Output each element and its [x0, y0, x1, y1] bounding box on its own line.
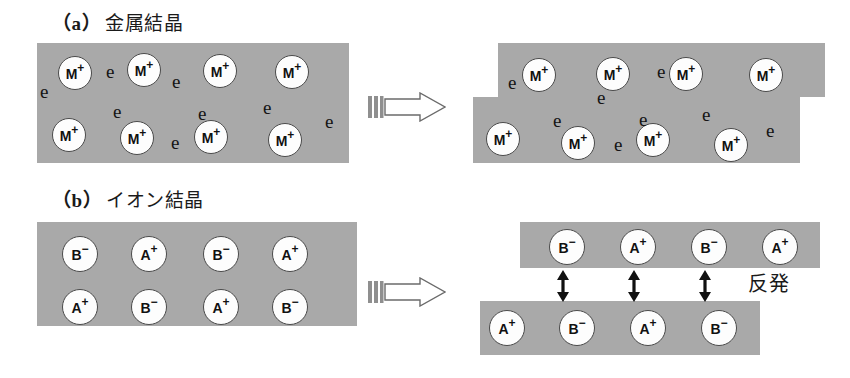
metal-ion-after: M+ [669, 57, 703, 91]
ionic-anion-before: B− [203, 236, 239, 272]
metal-ion-before: M+ [268, 123, 302, 157]
metal-ion-after-symbol: M [569, 137, 581, 151]
ionic-cation-after-charge: + [782, 236, 789, 248]
metal-ion-before: M+ [52, 118, 86, 152]
metal-ion-after-symbol: M [604, 68, 616, 82]
ionic-anion-before: B− [131, 289, 167, 325]
metal-before-electron: e [198, 104, 206, 123]
ionic-cation-before-symbol: A [212, 301, 222, 315]
metal-ion-before-charge: + [71, 124, 78, 136]
ionic-cation-after-symbol: A [629, 241, 639, 255]
metal-before-electron: e [40, 82, 48, 101]
metal-ion-after: M+ [596, 57, 630, 91]
ionic-cation-before-charge: + [223, 296, 230, 308]
ionic-anion-before-symbol: B [140, 301, 150, 315]
ionic-anion-before-symbol: B [71, 248, 81, 262]
ionic-cation-after-symbol: A [498, 322, 508, 336]
metal-ion-after-symbol: M [722, 139, 734, 153]
metal-ion-before: M+ [275, 55, 309, 89]
ionic-cation-after: A+ [489, 310, 525, 346]
metal-ion-after-charge: + [541, 64, 548, 76]
ionic-anion-after-symbol: B [568, 322, 578, 336]
metal-ion-before-charge: + [294, 61, 301, 73]
metal-ion-after: M+ [749, 58, 783, 92]
ionic-cation-after: A+ [620, 229, 656, 265]
repulsion-arrow [555, 270, 571, 302]
ionic-anion-before-charge: − [292, 296, 299, 308]
section-title-a: 金属結晶 [105, 13, 183, 34]
ionic-anion-after: B− [549, 229, 585, 265]
metal-ion-before-symbol: M [128, 132, 140, 146]
ionic-cation-before: A+ [62, 289, 98, 325]
metal-after-electron: e [553, 111, 561, 130]
ionic-cation-after-charge: + [509, 317, 516, 329]
ionic-anion-after: B− [701, 310, 737, 346]
metal-ion-before-charge: + [139, 127, 146, 139]
ionic-anion-after-symbol: B [710, 322, 720, 336]
metal-ion-after-charge: + [768, 64, 775, 76]
ionic-cation-before: A+ [272, 236, 308, 272]
metal-ion-before-charge: + [77, 62, 84, 74]
metal-ion-after-symbol: M [644, 134, 656, 148]
metal-before-electron: e [172, 72, 180, 91]
push-arrow-ionic [368, 277, 446, 307]
metal-ion-before: M+ [194, 120, 228, 154]
metal-ion-after: M+ [522, 58, 556, 92]
metal-ion-after-charge: + [580, 132, 587, 144]
metal-ion-before-symbol: M [276, 134, 288, 148]
ionic-anion-before-symbol: B [212, 248, 222, 262]
ionic-cation-after: A+ [762, 229, 798, 265]
metal-ion-before-symbol: M [202, 131, 214, 145]
repulsion-arrow [626, 270, 642, 302]
section-caption-b: （b）イオン結晶 [52, 185, 204, 212]
metal-ion-before-symbol: M [283, 66, 295, 80]
push-arrow-metal [368, 92, 446, 122]
repulsion-arrow [697, 270, 713, 302]
metal-ion-before: M+ [58, 56, 92, 90]
metal-ion-before: M+ [120, 121, 154, 155]
ionic-cation-after-symbol: A [771, 241, 781, 255]
metal-ion-before-symbol: M [66, 67, 78, 81]
section-caption-a: （a）金属結晶 [52, 8, 183, 35]
metal-after-electron: e [508, 73, 516, 92]
section-tag-a: （a） [52, 13, 101, 34]
metal-ion-before-charge: + [287, 129, 294, 141]
metal-ion-before-charge: + [146, 59, 153, 71]
metal-ion-after-symbol: M [530, 69, 542, 83]
ionic-cation-after-symbol: A [639, 322, 649, 336]
ionic-cation-before-charge: + [82, 296, 89, 308]
ionic-anion-after: B− [691, 229, 727, 265]
ionic-anion-after-charge: − [579, 317, 586, 329]
metal-ion-before-symbol: M [60, 129, 72, 143]
figure-canvas: （a）金属結晶（b）イオン結晶M+M+M+M+M+M+M+M+eeeeeeeeM… [0, 0, 850, 378]
ionic-cation-after-charge: + [650, 317, 657, 329]
ionic-anion-before-symbol: B [281, 301, 291, 315]
ionic-anion-before-charge: − [82, 243, 89, 255]
metal-ion-after: M+ [561, 126, 595, 160]
ionic-anion-before-charge: − [223, 243, 230, 255]
ionic-anion-after-symbol: B [558, 241, 568, 255]
metal-after-electron: e [766, 121, 774, 140]
metal-ion-after-symbol: M [494, 133, 506, 147]
ionic-cation-before-symbol: A [71, 301, 81, 315]
ionic-cation-before-charge: + [151, 243, 158, 255]
metal-ion-before-charge: + [222, 60, 229, 72]
ionic-cation-before-symbol: A [140, 248, 150, 262]
metal-ion-before: M+ [203, 54, 237, 88]
ionic-anion-after-charge: − [711, 236, 718, 248]
repulsion-label: 反発 [748, 268, 790, 297]
ionic-cation-after-charge: + [640, 236, 647, 248]
metal-after-slab [473, 97, 800, 163]
metal-ion-after-charge: + [505, 128, 512, 140]
ionic-anion-before-charge: − [151, 296, 158, 308]
ionic-anion-before: B− [62, 236, 98, 272]
metal-ion-after: M+ [486, 122, 520, 156]
metal-after-electron: e [597, 88, 605, 107]
metal-ion-after: M+ [714, 128, 748, 162]
ionic-cation-before-symbol: A [281, 248, 291, 262]
metal-after-electron: e [657, 62, 665, 81]
metal-ion-before-symbol: M [135, 64, 147, 78]
metal-ion-before: M+ [127, 53, 161, 87]
metal-before-electron: e [325, 112, 333, 131]
ionic-cation-before: A+ [131, 236, 167, 272]
